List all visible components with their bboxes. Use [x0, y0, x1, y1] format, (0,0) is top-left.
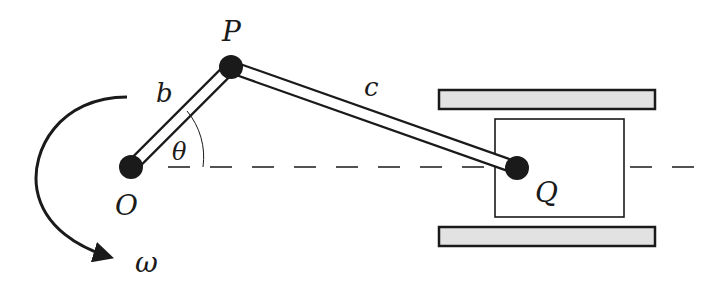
slider-pin-joint-Q: [505, 156, 529, 180]
label-Q: Q: [535, 176, 558, 209]
pivot-joint-O: [119, 155, 143, 179]
label-omega: ω: [135, 246, 158, 279]
rotation-arrow-icon: [36, 97, 127, 257]
crank-pin-joint-P: [219, 55, 243, 79]
label-P: P: [221, 15, 242, 48]
label-c: c: [364, 72, 379, 102]
slider-crank-diagram: P b c θ O Q ω: [0, 0, 722, 290]
label-theta: θ: [172, 138, 187, 166]
top-guide-rail: [439, 90, 655, 109]
bottom-guide-rail: [439, 227, 655, 246]
label-O: O: [115, 189, 138, 222]
label-b: b: [156, 78, 173, 108]
angle-arc: [187, 111, 204, 167]
